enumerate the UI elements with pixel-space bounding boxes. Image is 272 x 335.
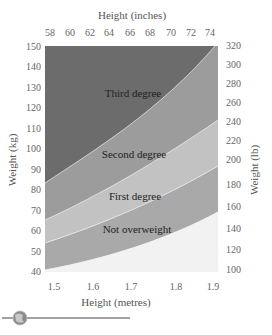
svg-text:60: 60 xyxy=(31,225,41,236)
svg-text:64: 64 xyxy=(104,27,114,38)
svg-text:70: 70 xyxy=(31,205,41,216)
svg-text:280: 280 xyxy=(226,78,241,89)
svg-text:90: 90 xyxy=(31,164,41,175)
svg-text:62: 62 xyxy=(85,27,95,38)
svg-text:180: 180 xyxy=(226,179,241,190)
label-first-degree: First degree xyxy=(109,190,161,202)
svg-text:120: 120 xyxy=(26,102,41,113)
svg-text:72: 72 xyxy=(186,27,196,38)
left-axis-title: Weight (kg) xyxy=(6,133,19,186)
svg-text:1.9: 1.9 xyxy=(207,281,220,292)
svg-text:140: 140 xyxy=(226,223,241,234)
svg-text:160: 160 xyxy=(226,201,241,212)
bottom-axis-title: Height (metres) xyxy=(81,296,151,309)
svg-text:80: 80 xyxy=(31,184,41,195)
svg-text:300: 300 xyxy=(226,59,241,70)
svg-text:74: 74 xyxy=(205,27,215,38)
svg-text:200: 200 xyxy=(226,154,241,165)
svg-text:50: 50 xyxy=(31,246,41,257)
svg-text:66: 66 xyxy=(125,27,135,38)
svg-text:68: 68 xyxy=(145,27,155,38)
svg-text:60: 60 xyxy=(65,27,75,38)
label-third-degree: Third degree xyxy=(105,87,162,99)
svg-text:120: 120 xyxy=(226,244,241,255)
svg-text:1.5: 1.5 xyxy=(48,281,61,292)
label-not-overweight: Not overweight xyxy=(103,223,172,235)
svg-text:70: 70 xyxy=(166,27,176,38)
svg-text:260: 260 xyxy=(226,97,241,108)
svg-text:150: 150 xyxy=(26,41,41,52)
svg-text:1.8: 1.8 xyxy=(170,281,183,292)
right-axis-ticks: 320 300 280 260 240 220 200 180 160 140 … xyxy=(226,40,241,275)
svg-text:1.7: 1.7 xyxy=(125,281,138,292)
svg-text:220: 220 xyxy=(226,135,241,146)
left-axis-ticks: 150 140 130 120 110 100 90 80 70 60 50 4… xyxy=(26,41,41,277)
svg-text:140: 140 xyxy=(26,61,41,72)
bmi-chart: Third degree Second degree First degree … xyxy=(0,0,272,335)
svg-text:320: 320 xyxy=(226,40,241,51)
svg-text:240: 240 xyxy=(226,116,241,127)
top-axis-ticks: 58 60 62 64 66 68 70 72 74 xyxy=(45,27,215,38)
top-axis-title: Height (inches) xyxy=(98,9,166,22)
svg-text:40: 40 xyxy=(31,266,41,277)
svg-text:110: 110 xyxy=(26,123,41,134)
svg-text:58: 58 xyxy=(45,27,55,38)
svg-text:1.6: 1.6 xyxy=(87,281,100,292)
label-second-degree: Second degree xyxy=(102,148,167,160)
svg-text:130: 130 xyxy=(26,82,41,93)
bottom-axis-ticks: 1.5 1.6 1.7 1.8 1.9 xyxy=(48,281,220,292)
right-axis-title: Weight (lb) xyxy=(248,145,261,195)
globe-icon xyxy=(13,311,27,325)
svg-text:100: 100 xyxy=(26,143,41,154)
svg-text:100: 100 xyxy=(226,264,241,275)
